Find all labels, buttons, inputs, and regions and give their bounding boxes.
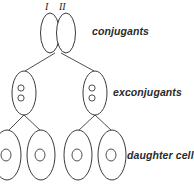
connector-exconjugant-left-to-daughter-1 bbox=[8, 115, 24, 131]
conjugant-roman-label-ii: II bbox=[59, 1, 66, 12]
exconjugant-right-nucleus-2 bbox=[89, 95, 95, 101]
daughter-cell-2-nucleus bbox=[35, 149, 45, 161]
exconjugant-cell-right bbox=[83, 71, 107, 115]
exconjugant-left-nucleus-2 bbox=[18, 95, 24, 101]
connector-exconjugant-right-to-daughter-4 bbox=[95, 115, 112, 131]
exconjugant-cell-left bbox=[12, 71, 36, 115]
daughter-cell-3-nucleus bbox=[72, 149, 82, 161]
stage-label-exconjugants: exconjugants bbox=[113, 86, 182, 98]
conjugants-group bbox=[41, 13, 76, 53]
stage-label-conjugants: conjugants bbox=[92, 25, 149, 37]
daughter-cell-1-nucleus bbox=[1, 149, 11, 161]
exconjugants-group bbox=[12, 71, 107, 115]
connector-conjugants-to-exconjugant-left bbox=[25, 53, 55, 71]
stage-label-daughter-cells: daughter cells bbox=[127, 149, 194, 161]
connector-conjugants-to-exconjugant-right bbox=[61, 53, 94, 71]
connector-exconjugant-left-to-daughter-2 bbox=[24, 115, 41, 131]
exconjugant-right-nucleus-1 bbox=[89, 85, 95, 91]
conjugant-cell-right bbox=[57, 13, 76, 53]
connector-exconjugant-right-to-daughter-3 bbox=[78, 115, 95, 131]
daughter-cell-4-nucleus bbox=[106, 149, 116, 161]
exconjugant-left-nucleus-1 bbox=[18, 85, 24, 91]
conjugant-roman-label-i: I bbox=[45, 1, 48, 12]
figure-canvas: I II conjugants exconjugants daughter ce… bbox=[0, 0, 194, 191]
